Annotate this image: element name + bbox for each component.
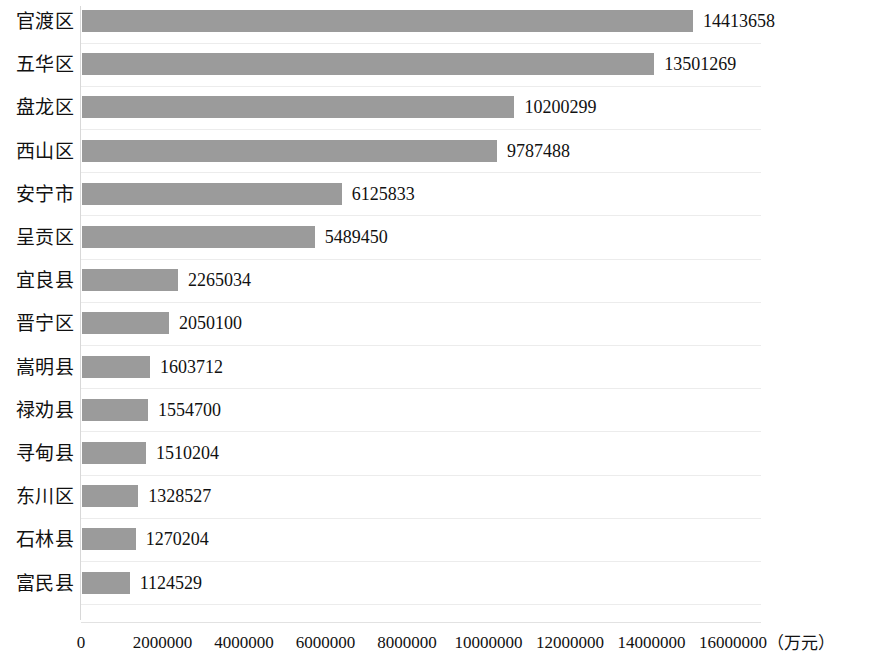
bar[interactable] xyxy=(82,485,138,507)
bar-value-label: 2265034 xyxy=(188,270,251,290)
category-label: 西山区 xyxy=(0,140,74,162)
grid-line xyxy=(81,604,761,605)
grid-line xyxy=(81,43,761,44)
bar-row: 安宁市6125833 xyxy=(0,183,869,225)
bar-value-label: 1270204 xyxy=(146,529,209,549)
x-axis-line xyxy=(81,622,761,623)
category-label: 石林县 xyxy=(0,528,74,550)
x-tick-label: 16000000 xyxy=(699,633,767,653)
bar-row: 呈贡区5489450 xyxy=(0,226,869,268)
bar-value-label: 1554700 xyxy=(158,400,221,420)
bar-row: 盘龙区10200299 xyxy=(0,96,869,138)
bar[interactable] xyxy=(82,572,130,594)
bar[interactable] xyxy=(82,528,136,550)
category-label: 官渡区 xyxy=(0,10,74,32)
x-tick-label: 14000000 xyxy=(618,633,686,653)
bar-row: 寻甸县1510204 xyxy=(0,442,869,484)
bar[interactable] xyxy=(82,442,146,464)
category-label: 宜良县 xyxy=(0,269,74,291)
x-axis-unit-label: （万元） xyxy=(767,633,835,653)
grid-line xyxy=(81,129,761,130)
bar[interactable] xyxy=(82,356,150,378)
bar[interactable] xyxy=(82,10,693,32)
category-label: 寻甸县 xyxy=(0,442,74,464)
x-axis: 0200000040000006000000800000010000000120… xyxy=(0,622,869,658)
x-tick-label: 0 xyxy=(77,633,86,653)
category-label: 安宁市 xyxy=(0,183,74,205)
grid-line xyxy=(81,561,761,562)
bar-row: 西山区9787488 xyxy=(0,140,869,182)
bar-value-label: 9787488 xyxy=(507,141,570,161)
bar-value-label: 13501269 xyxy=(664,54,736,74)
bar-row: 富民县1124529 xyxy=(0,572,869,614)
x-tick-label: 6000000 xyxy=(296,633,356,653)
bar[interactable] xyxy=(82,312,169,334)
grid-line xyxy=(81,86,761,87)
x-tick-label: 2000000 xyxy=(133,633,193,653)
bar-row: 石林县1270204 xyxy=(0,528,869,570)
grid-line xyxy=(81,215,761,216)
bar-row: 晋宁区2050100 xyxy=(0,312,869,354)
category-label: 东川区 xyxy=(0,485,74,507)
category-label: 富民县 xyxy=(0,572,74,594)
bar-value-label: 2050100 xyxy=(179,313,242,333)
bar[interactable] xyxy=(82,183,342,205)
category-label: 盘龙区 xyxy=(0,96,74,118)
bar-value-label: 14413658 xyxy=(703,11,775,31)
category-label: 五华区 xyxy=(0,53,74,75)
bar[interactable] xyxy=(82,140,497,162)
bar-value-label: 6125833 xyxy=(352,184,415,204)
bar-value-label: 5489450 xyxy=(325,227,388,247)
bar-value-label: 1603712 xyxy=(160,357,223,377)
category-label: 禄劝县 xyxy=(0,399,74,421)
category-label: 晋宁区 xyxy=(0,312,74,334)
bar-value-label: 1328527 xyxy=(148,486,211,506)
category-label: 呈贡区 xyxy=(0,226,74,248)
grid-line xyxy=(81,388,761,389)
bar-value-label: 1510204 xyxy=(156,443,219,463)
bar-value-label: 10200299 xyxy=(524,97,596,117)
bar-row: 官渡区14413658 xyxy=(0,10,869,52)
bar[interactable] xyxy=(82,269,178,291)
bar-chart: 官渡区14413658五华区13501269盘龙区10200299西山区9787… xyxy=(0,0,869,658)
grid-line xyxy=(81,302,761,303)
x-tick-label: 12000000 xyxy=(536,633,604,653)
bar[interactable] xyxy=(82,399,148,421)
bar-row: 东川区1328527 xyxy=(0,485,869,527)
grid-line xyxy=(81,259,761,260)
bar-value-label: 1124529 xyxy=(140,573,202,593)
plot-area: 官渡区14413658五华区13501269盘龙区10200299西山区9787… xyxy=(0,0,869,622)
grid-line xyxy=(81,172,761,173)
grid-line xyxy=(81,475,761,476)
bar-row: 宜良县2265034 xyxy=(0,269,869,311)
grid-line xyxy=(81,431,761,432)
bar-row: 嵩明县1603712 xyxy=(0,356,869,398)
bar[interactable] xyxy=(82,53,654,75)
x-tick-label: 10000000 xyxy=(455,633,523,653)
bar-row: 五华区13501269 xyxy=(0,53,869,95)
grid-line xyxy=(81,518,761,519)
category-label: 嵩明县 xyxy=(0,356,74,378)
bar-row: 禄劝县1554700 xyxy=(0,399,869,441)
x-tick-label: 4000000 xyxy=(214,633,274,653)
bar[interactable] xyxy=(82,226,315,248)
bar[interactable] xyxy=(82,96,514,118)
grid-line xyxy=(81,345,761,346)
x-tick-label: 8000000 xyxy=(377,633,437,653)
